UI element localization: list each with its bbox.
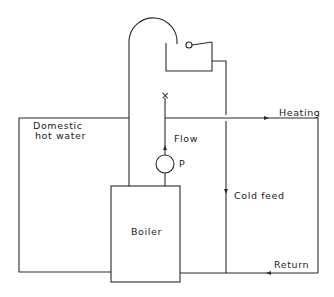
feed-tank	[166, 42, 212, 71]
domestic-hot-water-circuit	[19, 118, 129, 272]
air-vent-mark: ×	[161, 91, 170, 101]
boiler-label: Boiler	[131, 227, 162, 237]
heating-system-diagram	[0, 0, 334, 297]
heating-label: Heating	[279, 108, 320, 118]
flow-label: Flow	[174, 134, 198, 144]
return-arrow-icon	[266, 271, 271, 275]
flow-arrow-icon	[163, 145, 167, 150]
float-lever	[192, 42, 212, 45]
cold-feed-label: Cold feed	[234, 191, 285, 201]
vent-pipe	[129, 18, 177, 186]
domestic-label-line2: hot water	[35, 131, 86, 141]
cold-feed-pipe	[212, 61, 226, 115]
float-ball-icon	[186, 42, 192, 48]
pump-icon	[156, 155, 174, 173]
heating-arrow-icon	[264, 116, 269, 120]
pump-label: P	[179, 159, 185, 169]
cold-feed-arrow-icon	[224, 189, 228, 194]
return-label: Return	[274, 260, 309, 270]
